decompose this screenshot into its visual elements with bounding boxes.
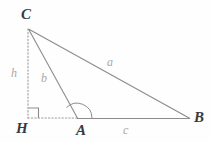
right-angle-mark bbox=[29, 108, 39, 118]
geometry-canvas bbox=[0, 0, 210, 142]
side-label-b: b bbox=[41, 72, 47, 84]
vertex-label-h: H bbox=[16, 121, 28, 136]
vertex-label-a: A bbox=[76, 123, 86, 138]
side-label-a: a bbox=[107, 56, 113, 68]
side-label-c: c bbox=[123, 124, 128, 136]
vertex-label-b: B bbox=[194, 110, 204, 125]
vertex-label-c: C bbox=[21, 7, 31, 22]
geometry-figure: C H A B h b a c bbox=[0, 0, 210, 142]
side-label-h: h bbox=[11, 67, 17, 79]
